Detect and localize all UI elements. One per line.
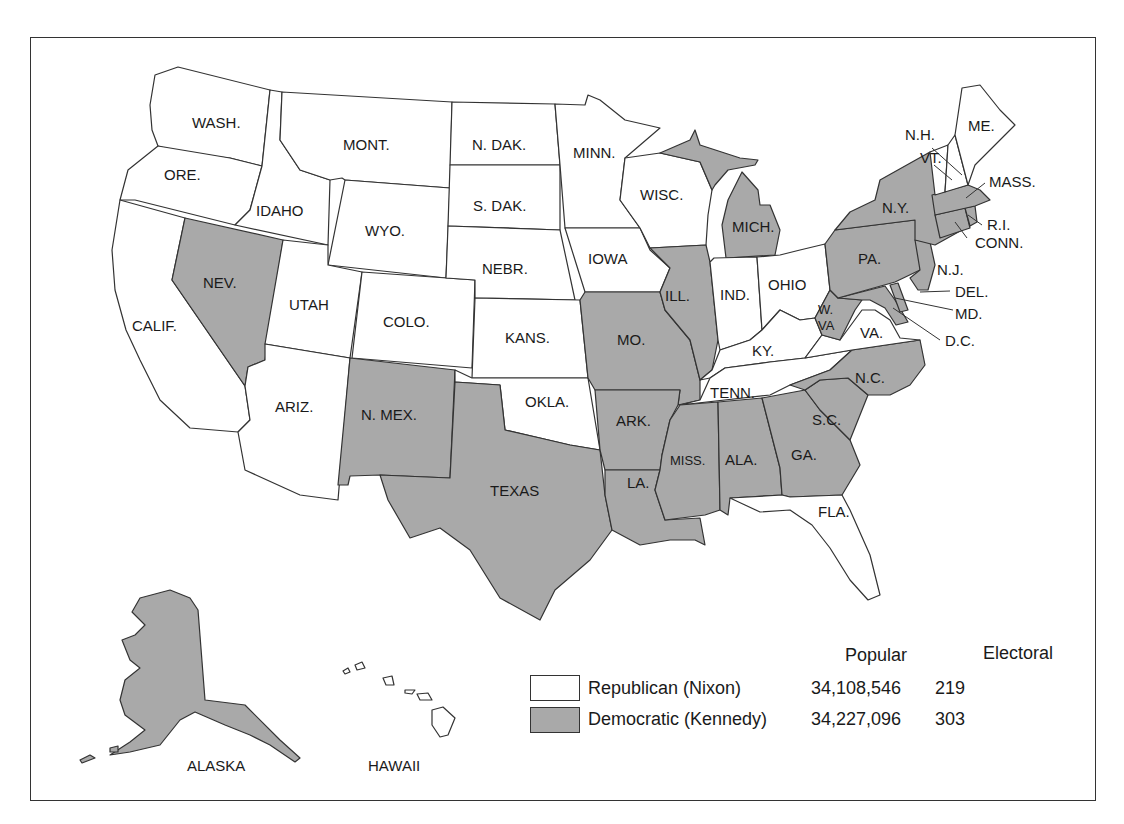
label-hawaii: HAWAII xyxy=(368,757,420,774)
label-texas: TEXAS xyxy=(490,482,539,499)
label-ny: N.Y. xyxy=(882,199,909,216)
label-utah: UTAH xyxy=(289,296,329,313)
state-ariz[interactable] xyxy=(238,344,350,500)
label-mo: MO. xyxy=(617,331,645,348)
label-vt: VT. xyxy=(920,149,942,166)
alaska-island xyxy=(80,755,95,763)
label-alaska: ALASKA xyxy=(187,757,245,774)
label-nj: N.J. xyxy=(937,261,964,278)
label-ga: GA. xyxy=(791,446,817,463)
state-me[interactable] xyxy=(955,85,1015,185)
label-ill: ILL. xyxy=(665,287,690,304)
legend-header-electoral: Electoral xyxy=(983,643,1053,664)
label-wash: WASH. xyxy=(192,114,241,131)
label-va: VA. xyxy=(860,324,883,341)
label-ore: ORE. xyxy=(164,166,201,183)
label-colo: COLO. xyxy=(383,313,430,330)
label-iowa: IOWA xyxy=(588,250,627,267)
state-alaska[interactable] xyxy=(110,590,300,762)
legend-header-popular: Popular xyxy=(845,645,907,666)
label-kans: KANS. xyxy=(505,329,550,346)
label-ohio: OHIO xyxy=(768,276,806,293)
label-sc: S.C. xyxy=(812,411,841,428)
label-md: MD. xyxy=(955,305,983,322)
label-minn: MINN. xyxy=(573,144,616,161)
label-mont: MONT. xyxy=(343,136,390,153)
label-tenn: TENN. xyxy=(710,384,755,401)
legend-label-republican: Republican (Nixon) xyxy=(588,678,741,699)
label-mass: MASS. xyxy=(989,173,1036,190)
label-ariz: ARIZ. xyxy=(275,398,313,415)
state-ndak[interactable] xyxy=(450,102,560,165)
label-ri: R.I. xyxy=(987,216,1010,233)
legend-electoral-republican: 219 xyxy=(935,678,965,699)
label-ark: ARK. xyxy=(616,412,651,429)
label-idaho: IDAHO xyxy=(256,202,304,219)
label-nc: N.C. xyxy=(855,369,885,386)
label-nh: N.H. xyxy=(905,126,935,143)
label-ndak: N. DAK. xyxy=(472,136,526,153)
label-ala: ALA. xyxy=(725,451,758,468)
label-pa: PA. xyxy=(858,250,881,267)
label-del: DEL. xyxy=(955,283,988,300)
state-mich[interactable] xyxy=(722,172,780,258)
label-wva-2: VA xyxy=(818,318,835,333)
label-me: ME. xyxy=(968,117,995,134)
label-dc: D.C. xyxy=(945,332,975,349)
legend-electoral-democratic: 303 xyxy=(935,709,965,730)
alaska-island xyxy=(110,746,118,752)
label-wyo: WYO. xyxy=(365,222,405,239)
label-okla: OKLA. xyxy=(525,393,569,410)
legend-swatch-republican xyxy=(530,675,580,701)
label-nev: NEV. xyxy=(203,274,237,291)
legend-label-democratic: Democratic (Kennedy) xyxy=(588,709,767,730)
label-calif: CALIF. xyxy=(132,317,177,334)
label-nebr: NEBR. xyxy=(482,260,528,277)
label-ky: KY. xyxy=(752,342,774,359)
state-fla[interactable] xyxy=(730,495,880,600)
label-fla: FLA. xyxy=(818,503,850,520)
label-ind: IND. xyxy=(720,286,750,303)
label-sdak: S. DAK. xyxy=(473,197,526,214)
legend-popular-republican: 34,108,546 xyxy=(811,678,901,699)
state-hawaii[interactable] xyxy=(343,662,455,737)
label-conn: CONN. xyxy=(975,234,1023,251)
legend-popular-democratic: 34,227,096 xyxy=(811,709,901,730)
label-mich: MICH. xyxy=(732,218,775,235)
label-miss: MISS. xyxy=(670,453,705,468)
label-la: LA. xyxy=(627,474,650,491)
label-nmex: N. MEX. xyxy=(361,406,417,423)
label-wisc: WISC. xyxy=(640,186,683,203)
label-wva-1: W. xyxy=(818,302,833,317)
legend-swatch-democratic xyxy=(530,707,580,733)
